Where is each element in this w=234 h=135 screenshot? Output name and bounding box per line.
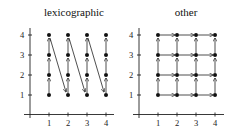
svg-text:4: 4 bbox=[104, 118, 109, 128]
grid-points bbox=[47, 33, 108, 97]
panel-lexicographic: lexicographic 1 2 3 4 1 2 3 4 bbox=[20, 6, 114, 128]
svg-text:1: 1 bbox=[20, 90, 24, 100]
svg-text:4: 4 bbox=[129, 30, 134, 40]
panel-title: other bbox=[175, 6, 198, 18]
svg-text:3: 3 bbox=[129, 50, 133, 60]
arrows bbox=[158, 35, 215, 95]
svg-text:2: 2 bbox=[20, 70, 24, 80]
svg-text:4: 4 bbox=[213, 118, 218, 128]
svg-text:2: 2 bbox=[129, 70, 133, 80]
svg-text:3: 3 bbox=[85, 118, 89, 128]
grid-points bbox=[156, 33, 217, 97]
svg-text:4: 4 bbox=[20, 30, 25, 40]
svg-text:1: 1 bbox=[156, 118, 160, 128]
svg-text:2: 2 bbox=[175, 118, 179, 128]
panel-other: other 1 2 3 4 1 2 3 4 bbox=[129, 6, 224, 128]
arrows bbox=[49, 38, 106, 93]
svg-text:3: 3 bbox=[194, 118, 198, 128]
diagram-canvas: lexicographic 1 2 3 4 1 2 3 4 bbox=[0, 0, 234, 135]
svg-text:1: 1 bbox=[47, 118, 51, 128]
svg-text:2: 2 bbox=[66, 118, 70, 128]
svg-text:1: 1 bbox=[129, 90, 133, 100]
panel-title: lexicographic bbox=[44, 6, 104, 18]
svg-text:3: 3 bbox=[20, 50, 24, 60]
